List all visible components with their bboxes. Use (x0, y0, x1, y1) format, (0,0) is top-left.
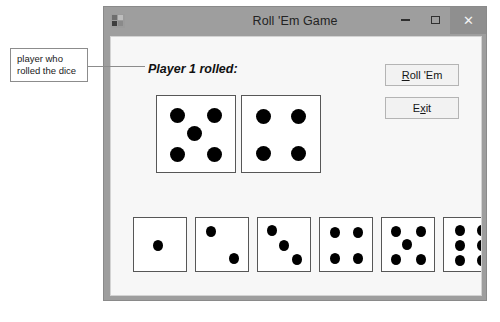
die-pip (416, 254, 426, 265)
gallery-die-1 (133, 217, 187, 272)
app-window-icon (111, 14, 125, 28)
gallery-die-5 (381, 217, 435, 272)
exit-button-label: Exit (413, 102, 431, 114)
die-pip (477, 225, 482, 236)
gallery-die-2 (195, 217, 249, 272)
app-window: Roll 'Em Game ✕ Player 1 rolled: Roll 'E… (103, 6, 487, 301)
die-pip (207, 108, 222, 123)
die-pip (153, 240, 163, 251)
die-pip (291, 146, 306, 161)
gallery-die-6 (443, 217, 482, 272)
client-area: Player 1 rolled: Roll 'Em Exit (110, 36, 482, 296)
close-icon: ✕ (463, 14, 474, 27)
die-pip (206, 226, 216, 237)
die-pip (416, 226, 426, 237)
die-pip (292, 254, 302, 265)
die-pip (187, 126, 202, 141)
die-pip (170, 108, 185, 123)
die-pip (353, 253, 363, 264)
annotation-line-2: rolled the dice (17, 65, 82, 77)
gallery-die-4 (319, 217, 373, 272)
die-pip (330, 227, 340, 238)
die-pip (207, 147, 222, 162)
die-pip (256, 146, 271, 161)
dice-gallery (133, 217, 473, 275)
die-pip (477, 240, 482, 251)
roll-em-button-label: Roll 'Em (402, 69, 443, 81)
die-pip (256, 109, 271, 124)
die-pip (267, 225, 277, 236)
die-pip (402, 239, 412, 250)
rolled-die-1 (156, 95, 236, 173)
rolled-die-2 (241, 95, 321, 173)
close-button[interactable]: ✕ (450, 7, 486, 34)
exit-button[interactable]: Exit (385, 97, 459, 119)
die-pip (279, 240, 289, 251)
die-pip (291, 109, 306, 124)
roll-em-button[interactable]: Roll 'Em (385, 64, 459, 86)
minimize-button[interactable] (390, 7, 420, 33)
window-bottom-edge (104, 299, 486, 300)
maximize-button[interactable] (420, 7, 450, 33)
die-pip (391, 226, 401, 237)
die-pip (391, 254, 401, 265)
title-bar[interactable]: Roll 'Em Game ✕ (104, 7, 486, 36)
minimize-icon (401, 19, 410, 21)
die-pip (477, 255, 482, 266)
die-pip (330, 253, 340, 264)
player-rolled-label: Player 1 rolled: (148, 62, 238, 76)
annotation-callout: player who rolled the dice (10, 48, 88, 82)
window-frame: Roll 'Em Game ✕ Player 1 rolled: Roll 'E… (104, 7, 486, 300)
die-pip (229, 253, 239, 264)
die-pip (170, 147, 185, 162)
annotation-line-1: player who (17, 53, 82, 65)
die-pip (455, 255, 465, 266)
gallery-die-3 (257, 217, 311, 272)
die-pip (455, 240, 465, 251)
die-pip (353, 227, 363, 238)
die-pip (455, 225, 465, 236)
annotation-leader-line (88, 66, 145, 67)
maximize-icon (431, 16, 440, 24)
